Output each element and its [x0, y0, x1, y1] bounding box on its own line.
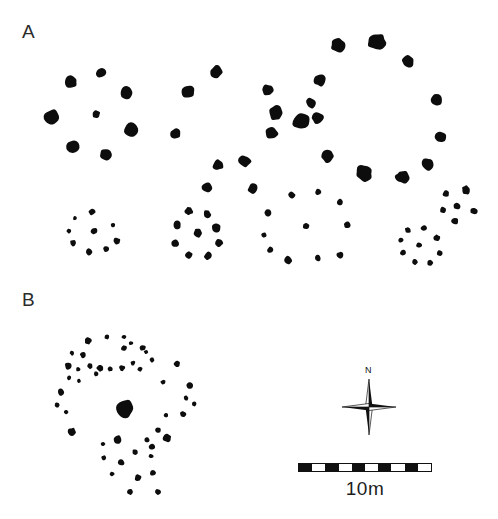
stone-marker	[344, 221, 351, 228]
panel-label-b: B	[22, 290, 35, 309]
stone-group-A-circle-3	[261, 189, 350, 265]
stone-marker	[267, 247, 273, 253]
stone-marker	[114, 238, 121, 245]
corner-artifact-text	[382, 0, 492, 12]
stone-marker	[284, 256, 292, 264]
stone-marker	[87, 363, 92, 369]
stone-group-A-ring-left	[44, 68, 181, 160]
stone-marker	[336, 252, 343, 259]
stone-group-A-circle-2	[171, 207, 223, 260]
compass-rose-icon	[338, 376, 400, 438]
stone-marker	[77, 379, 81, 383]
stone-marker	[86, 248, 92, 255]
stone-marker	[155, 427, 161, 432]
scale-segment	[312, 464, 325, 471]
stone-marker	[185, 251, 193, 259]
stone-marker	[433, 234, 440, 240]
scale-segment	[418, 464, 431, 471]
scale-segment	[405, 464, 418, 471]
stone-marker	[73, 216, 77, 220]
stone-group-A-circle-1	[66, 209, 120, 256]
scale-segment	[378, 464, 391, 471]
scale-bar	[298, 463, 432, 472]
stone-marker	[303, 223, 309, 229]
stone-marker	[100, 149, 112, 160]
stone-marker	[427, 260, 433, 266]
stone-marker	[440, 207, 446, 213]
stone-marker	[127, 489, 133, 495]
stone-marker	[116, 400, 133, 418]
scale-segment	[325, 464, 338, 471]
stone-marker	[321, 150, 334, 163]
stone-group-A-ring-middle	[182, 65, 326, 194]
stone-marker	[129, 341, 133, 345]
stone-marker	[292, 113, 309, 128]
stone-marker	[121, 86, 133, 99]
scale-segment	[299, 464, 312, 471]
stone-marker	[149, 444, 155, 450]
stone-marker	[192, 401, 196, 406]
stone-group-B-scatter-north-arc	[55, 335, 180, 415]
stone-marker	[93, 110, 100, 118]
stone-marker	[55, 403, 60, 408]
panel-label-a: A	[22, 22, 35, 41]
stone-marker	[210, 65, 222, 78]
stone-marker	[135, 474, 142, 481]
stone-marker	[80, 352, 86, 358]
stone-marker	[443, 190, 449, 197]
stone-marker	[150, 358, 155, 363]
stone-marker	[111, 223, 115, 227]
stone-marker	[105, 335, 109, 340]
stone-marker	[119, 365, 125, 371]
stone-marker	[133, 449, 138, 455]
stone-marker	[108, 366, 113, 371]
stone-marker	[131, 361, 136, 366]
scale-bar-label: 10m	[298, 478, 432, 500]
stone-marker	[368, 34, 387, 49]
stone-group-B-scatter-south-arc	[68, 382, 197, 495]
stone-marker	[96, 365, 103, 372]
stone-marker	[149, 454, 154, 458]
stone-marker	[315, 255, 321, 261]
stone-marker	[170, 128, 180, 138]
stone-marker	[470, 208, 477, 214]
stone-marker	[140, 345, 146, 350]
stone-marker	[288, 192, 295, 199]
stone-marker	[213, 159, 224, 169]
stone-marker	[144, 350, 148, 354]
stone-marker	[174, 220, 181, 229]
stone-marker	[110, 472, 115, 476]
scale-segment	[391, 464, 404, 471]
stone-marker	[238, 156, 251, 168]
site-plan-figure: A B N 10m	[0, 0, 498, 519]
stone-marker	[186, 382, 193, 389]
stone-marker	[94, 371, 98, 376]
stone-group-A-ring-right	[312, 34, 446, 183]
stone-marker	[124, 122, 138, 137]
stone-marker	[402, 55, 414, 67]
stone-marker	[64, 410, 68, 414]
stone-marker	[462, 185, 470, 194]
stone-marker	[184, 207, 193, 215]
stone-marker	[65, 75, 77, 87]
stone-marker	[114, 435, 122, 443]
stone-marker	[395, 171, 410, 184]
stone-marker	[431, 94, 442, 105]
stone-marker	[85, 337, 92, 344]
stone-marker	[269, 105, 282, 120]
stone-marker	[215, 239, 223, 247]
stone-marker	[262, 84, 273, 95]
stone-marker	[204, 252, 212, 260]
stone-marker	[163, 434, 171, 442]
scale-segment	[365, 464, 378, 471]
stone-marker	[266, 127, 279, 138]
stone-marker	[101, 442, 106, 446]
stone-marker	[121, 345, 127, 351]
stone-marker	[248, 183, 258, 194]
stone-group-B-central-boulder	[116, 400, 133, 418]
stone-marker	[400, 250, 406, 256]
stone-marker	[137, 367, 142, 372]
stone-marker	[180, 411, 186, 417]
stone-marker	[76, 367, 80, 371]
stone-marker	[356, 165, 371, 182]
